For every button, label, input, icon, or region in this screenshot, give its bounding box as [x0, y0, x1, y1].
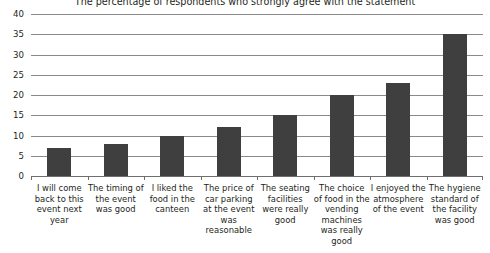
x-axis-tick — [482, 176, 483, 180]
bar[interactable] — [217, 127, 241, 176]
bar[interactable] — [104, 144, 128, 176]
x-axis-tick — [144, 176, 145, 180]
y-tick-label-35: 35 — [13, 30, 24, 39]
x-axis-tick — [257, 176, 258, 180]
bar[interactable] — [386, 83, 410, 176]
category-label: The choice of food in the vending machin… — [314, 183, 370, 247]
x-axis-tick — [314, 176, 315, 180]
x-axis-tick — [370, 176, 371, 180]
y-tick-label-15: 15 — [13, 111, 24, 120]
bar[interactable] — [273, 115, 297, 176]
x-axis-tick — [201, 176, 202, 180]
y-tick-label-25: 25 — [13, 70, 24, 79]
y-tick-label-40: 40 — [13, 10, 24, 19]
bar[interactable] — [443, 34, 467, 176]
bar-chart: The percentage of respondents who strong… — [0, 0, 490, 253]
category-label: I will come back to this event next year — [31, 183, 87, 225]
x-axis-ticks — [31, 176, 483, 180]
x-axis-tick — [427, 176, 428, 180]
x-axis-tick — [31, 176, 32, 180]
bar[interactable] — [330, 95, 354, 176]
y-tick-label-20: 20 — [13, 91, 24, 100]
bar[interactable] — [47, 148, 71, 176]
y-axis: 4035302520151050 — [0, 14, 27, 176]
category-label: The seating facilities were really good — [257, 183, 313, 225]
y-tick-label-5: 5 — [19, 151, 24, 160]
category-label: The price of car parking at the event wa… — [201, 183, 257, 236]
y-tick-label-30: 30 — [13, 50, 24, 59]
category-label: The timing of the event was good — [88, 183, 144, 215]
category-label: The hygiene standard of the facility was… — [427, 183, 483, 225]
category-label: I enjoyed the atmosphere of the event — [370, 183, 426, 215]
bars-layer — [31, 14, 483, 176]
category-label: I liked the food in the canteen — [144, 183, 200, 215]
x-axis-tick — [88, 176, 89, 180]
chart-title: The percentage of respondents who strong… — [0, 0, 490, 8]
bar[interactable] — [160, 136, 184, 177]
y-tick-label-10: 10 — [13, 131, 24, 140]
category-labels: I will come back to this event next year… — [31, 183, 483, 253]
y-tick-label-0: 0 — [19, 172, 24, 181]
